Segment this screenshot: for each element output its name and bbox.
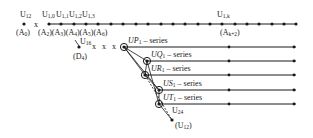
series-label-uq1: UQ1 – series — [151, 51, 192, 60]
label-u13: U1,3 — [82, 11, 95, 20]
label-u12-end: (U12) — [175, 122, 192, 131]
series-label-ur1: UR1 – series — [151, 65, 191, 74]
label-u24: U24 — [172, 107, 183, 116]
label-ak2: (Ak+2) — [220, 29, 240, 38]
label-u12b: U1,2 — [69, 11, 82, 20]
series-label-us1: US1 – series — [163, 80, 202, 89]
series-label-up1: UP1 – series — [128, 37, 168, 46]
label-u11: U1,1 — [56, 11, 69, 20]
cross-marks: x x x — [92, 43, 116, 51]
u12-end-node — [170, 118, 173, 121]
label-a0: (A0) — [16, 29, 30, 38]
label-u1k: U1,k — [217, 11, 230, 20]
series-label-ut1: UT1 – series — [163, 94, 202, 103]
label-u12: U12 — [20, 11, 31, 20]
label-d4: (D4) — [73, 53, 87, 62]
label-a2-a6: (A2)(A3)(A4)(A5)(A6) — [38, 29, 107, 38]
label-u16: U16 — [80, 38, 91, 47]
u16-tick — [75, 40, 79, 46]
label-u10: U1,0 — [42, 11, 55, 20]
series-lines — [124, 47, 296, 104]
